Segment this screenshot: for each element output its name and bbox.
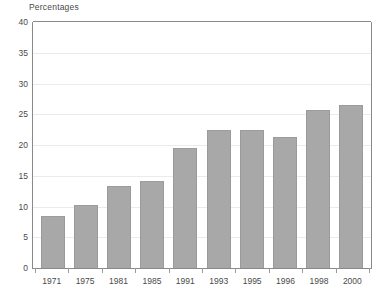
- y-tick-label: 35: [19, 48, 28, 58]
- y-tick-label: 15: [19, 171, 28, 181]
- x-tick: [269, 268, 270, 273]
- bar-slot: [268, 22, 301, 268]
- x-tick: [202, 268, 203, 273]
- x-tick: [68, 268, 69, 273]
- bar: [107, 186, 131, 268]
- y-tick-label: 10: [19, 202, 28, 212]
- x-tick: [369, 268, 370, 273]
- x-tick: [135, 268, 136, 273]
- x-tick: [336, 268, 337, 273]
- x-tick-label: 1971: [35, 276, 68, 294]
- plot-area: [32, 22, 372, 269]
- bar: [273, 137, 297, 268]
- y-tick-label: 0: [23, 263, 28, 273]
- bar: [173, 148, 197, 268]
- bar: [140, 181, 164, 268]
- x-tick-label: 1995: [235, 276, 268, 294]
- chart-title: Percentages: [29, 2, 79, 12]
- bar: [74, 205, 98, 268]
- x-axis: 1971197519811985199119931995199619982000: [32, 276, 372, 294]
- x-tick-label: 1985: [135, 276, 168, 294]
- y-tick-label: 25: [19, 109, 28, 119]
- x-tick-label: 1993: [202, 276, 235, 294]
- bar-slot: [169, 22, 202, 268]
- bar-slot: [302, 22, 335, 268]
- bar-chart: Percentages 0510152025303540 19711975198…: [0, 0, 387, 298]
- y-axis: 0510152025303540: [0, 22, 28, 268]
- x-tick-label: 2000: [336, 276, 369, 294]
- bar-slot: [36, 22, 69, 268]
- bar: [240, 130, 264, 268]
- x-tick-label: 1996: [269, 276, 302, 294]
- x-tick-label: 1998: [302, 276, 335, 294]
- bar: [339, 105, 363, 268]
- x-tick-label: 1991: [169, 276, 202, 294]
- x-tick: [102, 268, 103, 273]
- y-tick-label: 40: [19, 17, 28, 27]
- x-tick: [235, 268, 236, 273]
- x-tick: [35, 268, 36, 273]
- bar-slot: [136, 22, 169, 268]
- bar-slot: [235, 22, 268, 268]
- y-tick-label: 20: [19, 140, 28, 150]
- y-tick-label: 5: [23, 232, 28, 242]
- x-tick-label: 1981: [102, 276, 135, 294]
- x-axis-ticks: [32, 268, 372, 273]
- bar: [306, 110, 330, 268]
- x-tick: [169, 268, 170, 273]
- bar-series: [33, 22, 371, 268]
- y-tick-label: 30: [19, 79, 28, 89]
- bar-slot: [335, 22, 368, 268]
- x-tick-label: 1975: [68, 276, 101, 294]
- bar-slot: [102, 22, 135, 268]
- bar: [207, 130, 231, 268]
- x-tick: [302, 268, 303, 273]
- bar-slot: [69, 22, 102, 268]
- bar: [41, 216, 65, 268]
- bar-slot: [202, 22, 235, 268]
